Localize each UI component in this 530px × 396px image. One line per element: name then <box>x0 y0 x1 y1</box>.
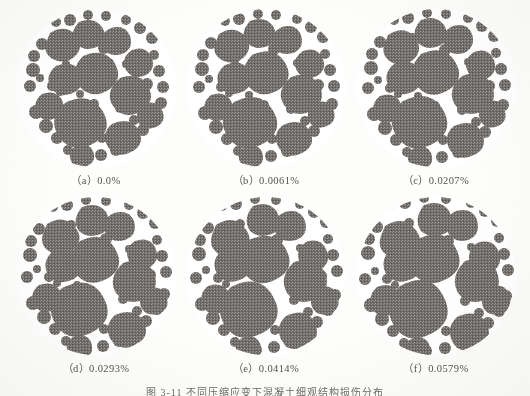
specimen-panel-f: （f）0.0579% <box>348 190 524 378</box>
specimen-image-c <box>356 8 516 168</box>
panel-grid: （a）0.0% <box>0 0 530 374</box>
panel-caption-a: （a）0.0% <box>8 172 184 187</box>
figure-caption: 图 3-11 不同压缩应变下混凝土细观结构损伤分布 <box>0 384 530 396</box>
specimen-image-d <box>16 196 176 356</box>
specimen-image-f <box>356 196 516 356</box>
specimen-panel-b: （b）0.0061% <box>178 2 354 190</box>
specimen-panel-c: （c）0.0207% <box>348 2 524 190</box>
panel-caption-e: （e）0.0414% <box>178 360 354 375</box>
figure-sheet: （a）0.0% <box>0 0 530 396</box>
specimen-panel-a: （a）0.0% <box>8 2 184 190</box>
panel-caption-d: （d）0.0293% <box>8 360 184 375</box>
specimen-image-a <box>16 8 176 168</box>
specimen-panel-d: （d）0.0293% <box>8 190 184 378</box>
panel-caption-b: （b）0.0061% <box>178 172 354 187</box>
specimen-panel-e: （e）0.0414% <box>178 190 354 378</box>
specimen-image-b <box>186 8 346 168</box>
panel-caption-c: （c）0.0207% <box>348 172 524 187</box>
specimen-image-e <box>186 196 346 356</box>
panel-caption-f: （f）0.0579% <box>348 360 524 375</box>
